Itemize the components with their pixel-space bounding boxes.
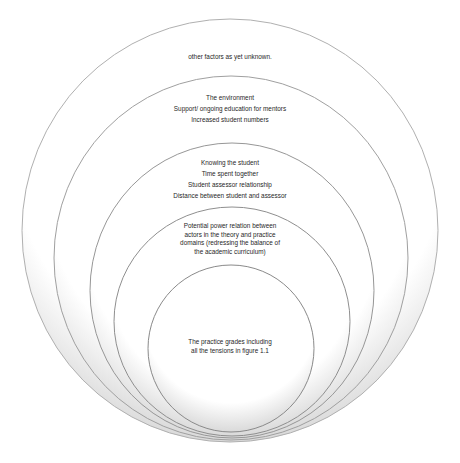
label-line: The practice grades including — [0, 338, 460, 347]
label-line: Student assessor relationship — [0, 179, 460, 190]
label-line: Increased student numbers — [0, 114, 460, 125]
ring-5-label: The practice grades including all the te… — [0, 338, 460, 355]
label-line: all the tensions in figure 1.1 — [0, 347, 460, 356]
label-line: The environment — [0, 92, 460, 103]
label-line: the academic curriculum) — [0, 248, 460, 257]
label-line: Distance between student and assessor — [0, 190, 460, 201]
ring-1-label: other factors as yet unknown. — [0, 51, 460, 62]
label-line: actors in the theory and practice — [0, 231, 460, 240]
label-line: Knowing the student — [0, 157, 460, 168]
label-line: Potential power relation between — [0, 222, 460, 231]
ring-2-label: The environment Support/ ongoing educati… — [0, 92, 460, 125]
nested-circles-diagram: other factors as yet unknown. The enviro… — [0, 0, 460, 463]
label-line: other factors as yet unknown. — [0, 51, 460, 62]
ring-4-label: Potential power relation between actors … — [0, 222, 460, 256]
label-line: Time spent together — [0, 168, 460, 179]
label-line: domains (redressing the balance of — [0, 239, 460, 248]
label-line: Support/ ongoing education for mentors — [0, 103, 460, 114]
ring-3-label: Knowing the student Time spent together … — [0, 157, 460, 201]
